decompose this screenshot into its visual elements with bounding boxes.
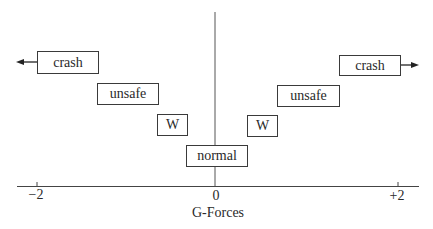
warning-right-box: W [247,115,278,137]
unsafe-right-box: unsafe [277,85,340,107]
arrow-left-icon [16,59,37,65]
normal-box: normal [186,145,248,167]
warning-left-box: W [157,114,188,136]
tick-label-zero: 0 [213,188,220,204]
g-force-diagram: crash unsafe W normal W unsafe crash −2 … [0,0,433,229]
tick-label-plus-2: +2 [390,188,405,204]
arrow-right-icon [400,62,419,68]
crash-right-box: crash [339,55,401,76]
x-axis-title: G-Forces [192,205,244,221]
unsafe-left-box: unsafe [97,83,159,105]
tick-label-minus-2: −2 [29,187,44,203]
crash-left-box: crash [37,51,99,74]
